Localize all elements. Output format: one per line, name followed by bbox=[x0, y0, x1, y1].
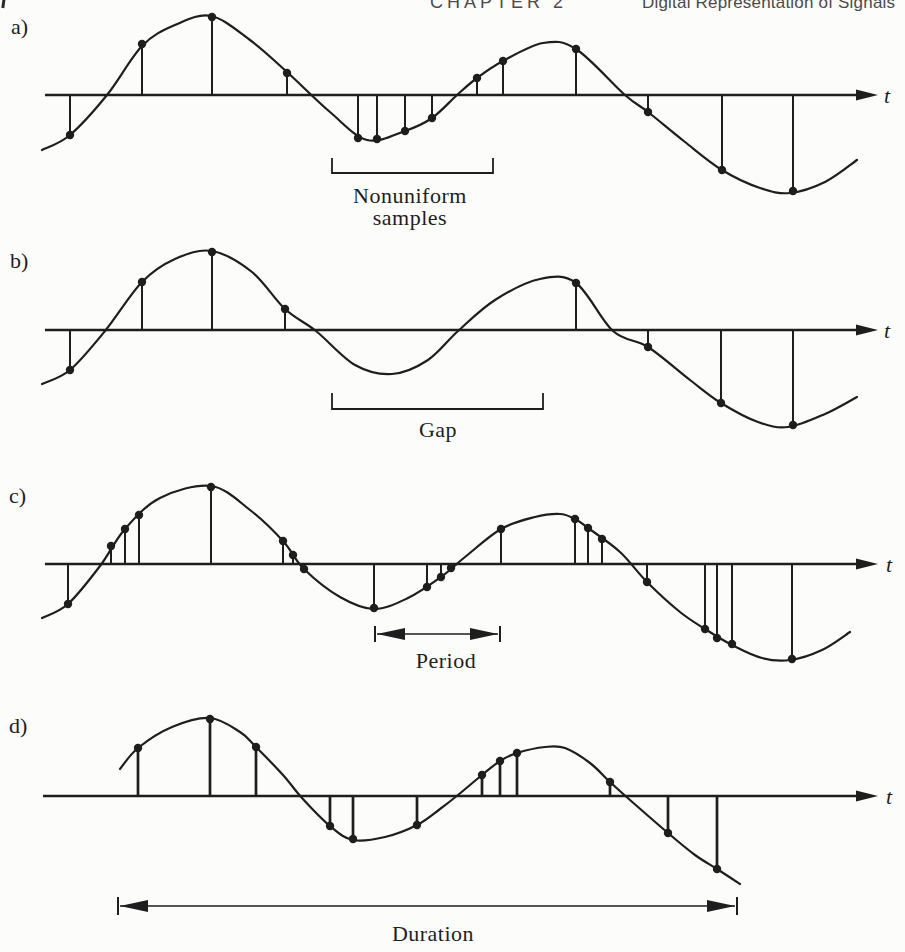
figure-canvas: a)tNonuniformsamplesb)tGapc)tPeriodd)tDu… bbox=[0, 0, 905, 952]
annotation-text: samples bbox=[373, 205, 447, 230]
panel-b: b)tGap bbox=[10, 248, 891, 442]
panel-a-label: a) bbox=[11, 14, 28, 39]
panel-c-label: c) bbox=[9, 483, 26, 508]
signal-curve bbox=[120, 718, 740, 884]
left-arrowhead-icon bbox=[377, 628, 405, 640]
annotation-bracket bbox=[332, 158, 493, 173]
annotation-bracket bbox=[332, 393, 543, 409]
annotation-text: Gap bbox=[419, 417, 457, 442]
axis-arrowhead-icon bbox=[856, 325, 878, 336]
axis-t-label: t bbox=[884, 83, 891, 108]
annotation-text: Duration bbox=[392, 921, 474, 946]
annotation-text: Period bbox=[416, 648, 476, 673]
left-arrowhead-icon bbox=[120, 900, 148, 912]
axis-arrowhead-icon bbox=[856, 559, 878, 570]
panel-a: a)tNonuniformsamples bbox=[11, 13, 891, 230]
axis-t-label: t bbox=[886, 784, 893, 809]
right-arrowhead-icon bbox=[470, 628, 498, 640]
panel-d-label: d) bbox=[9, 713, 27, 738]
panel-b-label: b) bbox=[10, 248, 28, 273]
book-page: CHAPTER 2 Digital Representation of Sign… bbox=[0, 0, 905, 952]
signal-curve bbox=[42, 15, 857, 193]
panel-c: c)tPeriod bbox=[9, 483, 893, 673]
axis-t-label: t bbox=[884, 318, 891, 343]
axis-arrowhead-icon bbox=[856, 90, 878, 101]
right-arrowhead-icon bbox=[707, 900, 735, 912]
signal-curve bbox=[42, 250, 857, 427]
axis-arrowhead-icon bbox=[856, 791, 878, 802]
axis-t-label: t bbox=[886, 552, 893, 577]
panel-d: d)tDuration bbox=[9, 713, 893, 946]
